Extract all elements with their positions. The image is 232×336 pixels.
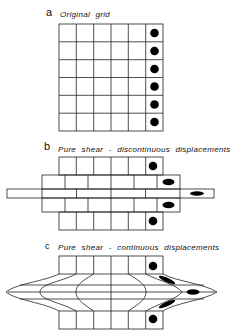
discontinuous-grid bbox=[7, 157, 214, 230]
original-grid bbox=[59, 24, 163, 131]
discontinuous-markers bbox=[149, 162, 204, 226]
continuous-grid bbox=[6, 256, 217, 329]
continuous-markers bbox=[149, 262, 200, 324]
diagram-canvas bbox=[0, 0, 232, 336]
